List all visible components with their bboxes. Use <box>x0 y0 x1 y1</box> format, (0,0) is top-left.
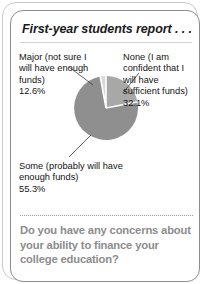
pie-slice-major <box>100 76 106 108</box>
page-title: First-year students report . . . <box>22 22 192 36</box>
pie-label-major: Major (not sure I will have enough funds… <box>19 52 97 98</box>
report-card-outer-border: First-year students report . . . Major (… <box>2 2 198 280</box>
survey-question: Do you have any concerns about your abil… <box>20 223 196 267</box>
footer-divider <box>20 215 193 216</box>
pie-label-none-pct: 32.1% <box>123 98 193 109</box>
report-card: First-year students report . . . Major (… <box>10 10 200 282</box>
pie-label-none: None (I am confident that I will have su… <box>123 52 193 109</box>
title-divider <box>20 42 192 43</box>
pie-separator-3 <box>100 76 106 108</box>
leader-line-some <box>69 135 91 157</box>
pie-label-some: Some (probably will have enough funds) 5… <box>19 161 131 195</box>
pie-label-major-text: Major (not sure I will have enough funds… <box>19 52 88 85</box>
pie-label-some-text: Some (probably will have enough funds) <box>19 161 123 182</box>
pie-label-some-pct: 55.3% <box>19 184 131 195</box>
pie-label-none-text: None (I am confident that I will have su… <box>123 52 188 96</box>
pie-label-major-pct: 12.6% <box>19 86 97 97</box>
